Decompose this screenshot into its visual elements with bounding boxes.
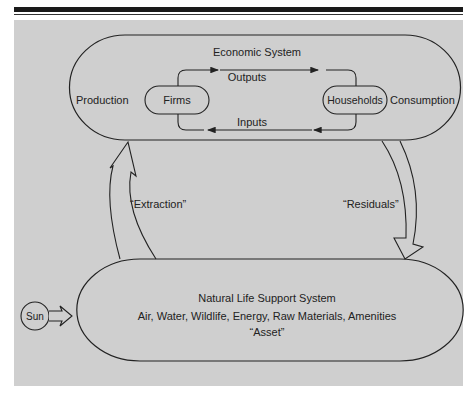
economic-system-title: Economic System bbox=[213, 46, 301, 58]
diagram: Economic System Production Consumption F… bbox=[0, 0, 476, 393]
outputs-arrow bbox=[178, 70, 218, 86]
outputs-label: Outputs bbox=[228, 71, 267, 83]
households-label: Households bbox=[327, 94, 382, 106]
inputs-label: Inputs bbox=[237, 116, 267, 128]
extraction-label: “Extraction” bbox=[130, 198, 187, 210]
firms-label: Firms bbox=[163, 94, 191, 106]
production-label: Production bbox=[76, 94, 129, 106]
sun-arrow bbox=[49, 306, 72, 326]
inputs-arrow bbox=[314, 114, 356, 130]
asset-label: “Asset” bbox=[250, 326, 285, 338]
sun-label: Sun bbox=[26, 311, 44, 322]
natural-system-title: Natural Life Support System bbox=[198, 292, 336, 304]
residuals-label: “Residuals” bbox=[343, 198, 399, 210]
consumption-label: Consumption bbox=[390, 94, 455, 106]
natural-system-components: Air, Water, Wildlife, Energy, Raw Materi… bbox=[138, 310, 397, 322]
